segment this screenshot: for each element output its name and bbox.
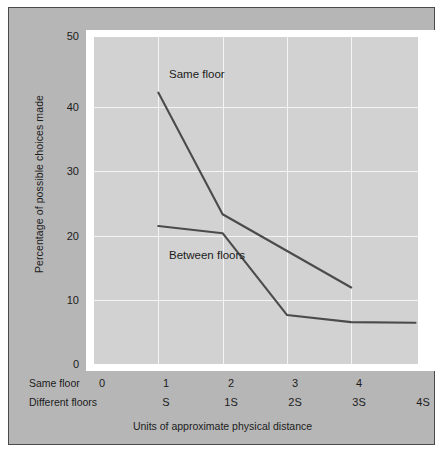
x-axis-title: Units of approximate physical distance <box>9 420 436 432</box>
y-tick-50: 50 <box>49 31 79 42</box>
figure-card: Same floor Between floors 50 40 30 20 10… <box>8 7 435 445</box>
x-axis-row-same-floor: Same floor 0 1 2 3 4 <box>9 377 436 393</box>
x-tick-diff-1: S <box>162 396 169 408</box>
y-tick-10: 10 <box>49 295 79 306</box>
x-tick-same-1: 1 <box>163 377 169 389</box>
x-tick-same-0: 0 <box>99 377 105 389</box>
annotation-between-floors: Between floors <box>169 249 245 261</box>
x-row-label-different-floors: Different floors <box>29 396 97 408</box>
y-axis-title: Percentage of possible choices made <box>33 84 45 284</box>
y-tick-0: 0 <box>49 359 79 370</box>
series-plot <box>94 37 418 364</box>
x-tick-diff-4: 3S <box>352 396 365 408</box>
x-tick-same-3: 3 <box>292 377 298 389</box>
annotation-same-floor: Same floor <box>169 68 225 80</box>
x-tick-diff-3: 2S <box>288 396 301 408</box>
y-tick-20: 20 <box>49 231 79 242</box>
x-row-label-same-floor: Same floor <box>29 377 80 389</box>
x-tick-same-4: 4 <box>356 377 362 389</box>
y-tick-30: 30 <box>49 166 79 177</box>
x-axis-row-different-floors: Different floors S 1S 2S 3S 4S <box>9 396 436 412</box>
y-tick-40: 40 <box>49 102 79 113</box>
plot-area: Same floor Between floors <box>94 37 418 364</box>
line-between-floors <box>158 226 415 323</box>
x-tick-same-2: 2 <box>228 377 234 389</box>
x-tick-diff-2: 1S <box>224 396 237 408</box>
x-tick-diff-5: 4S <box>416 396 429 408</box>
